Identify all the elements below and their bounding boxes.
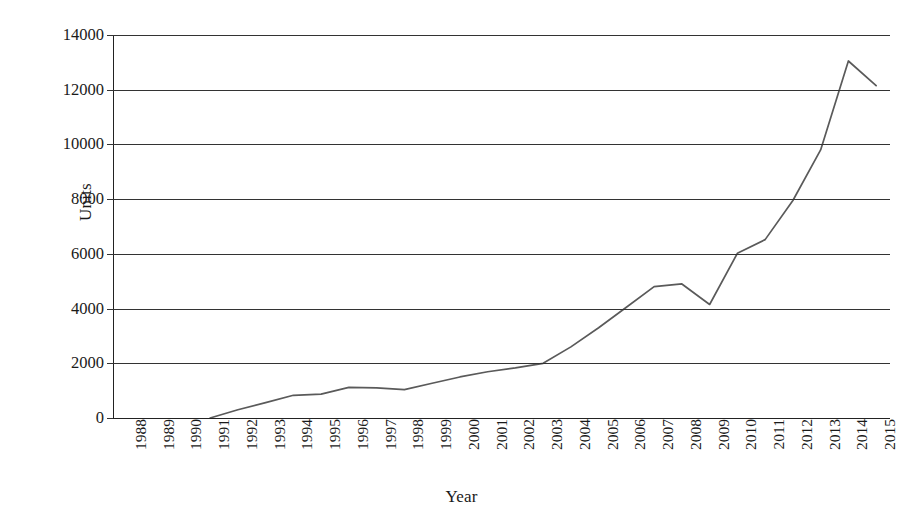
x-tick-label-2013: 2013: [827, 419, 843, 450]
x-tick-label-2007: 2007: [660, 419, 676, 450]
gridline-12000: [113, 90, 890, 91]
x-tick-label-2002: 2002: [521, 419, 537, 450]
y-tick-mark-2000: [107, 363, 113, 364]
x-tick-label-1991: 1991: [216, 419, 232, 450]
x-tick-label-1993: 1993: [272, 419, 288, 450]
y-tick-mark-8000: [107, 199, 113, 200]
x-tick-label-1996: 1996: [355, 419, 371, 450]
x-tick-label-2012: 2012: [799, 419, 815, 450]
x-tick-label-1997: 1997: [383, 419, 399, 450]
x-tick-label-2014: 2014: [854, 419, 870, 450]
x-axis-title: Year: [0, 487, 923, 507]
x-tick-label-2004: 2004: [577, 419, 593, 450]
y-tick-label-0: 0: [0, 410, 104, 427]
gridline-6000: [113, 254, 890, 255]
x-tick-label-1992: 1992: [244, 419, 260, 450]
x-tick-label-2001: 2001: [494, 419, 510, 450]
x-tick-label-1988: 1988: [133, 419, 149, 450]
y-tick-mark-12000: [107, 90, 113, 91]
x-tick-label-1998: 1998: [410, 419, 426, 450]
y-tick-label-6000: 6000: [0, 246, 104, 263]
gridline-10000: [113, 144, 890, 145]
gridline-2000: [113, 363, 890, 364]
plot-area: [113, 35, 890, 418]
gridline-8000: [113, 199, 890, 200]
y-tick-label-10000: 10000: [0, 136, 104, 153]
y-tick-label-4000: 4000: [0, 300, 104, 317]
line-chart: Units 02000400060008000100001200014000 1…: [0, 0, 923, 522]
x-tick-label-1989: 1989: [161, 419, 177, 450]
x-tick-label-1994: 1994: [299, 419, 315, 450]
y-tick-mark-6000: [107, 254, 113, 255]
y-tick-mark-14000: [107, 35, 113, 36]
gridline-4000: [113, 309, 890, 310]
y-tick-label-14000: 14000: [0, 27, 104, 44]
x-tick-label-2008: 2008: [688, 419, 704, 450]
x-tick-label-2011: 2011: [771, 419, 787, 449]
y-tick-mark-10000: [107, 144, 113, 145]
data-series-line: [113, 35, 890, 418]
x-tick-label-1995: 1995: [327, 419, 343, 450]
x-tick-label-2009: 2009: [716, 419, 732, 450]
x-tick-label-2010: 2010: [743, 419, 759, 450]
x-axis-tick-labels: 1988198919901991199219931994199519961997…: [113, 419, 890, 479]
x-tick-label-2006: 2006: [632, 419, 648, 450]
x-tick-label-2000: 2000: [466, 419, 482, 450]
gridline-14000: [113, 35, 890, 36]
x-tick-label-2005: 2005: [605, 419, 621, 450]
y-axis-tick-labels: 02000400060008000100001200014000: [0, 0, 104, 522]
y-tick-label-8000: 8000: [0, 191, 104, 208]
x-tick-label-1990: 1990: [188, 419, 204, 450]
x-tick-label-1999: 1999: [438, 419, 454, 450]
y-tick-mark-4000: [107, 309, 113, 310]
x-tick-label-2015: 2015: [882, 419, 898, 450]
x-tick-label-2003: 2003: [549, 419, 565, 450]
y-tick-label-2000: 2000: [0, 355, 104, 372]
y-tick-label-12000: 12000: [0, 81, 104, 98]
